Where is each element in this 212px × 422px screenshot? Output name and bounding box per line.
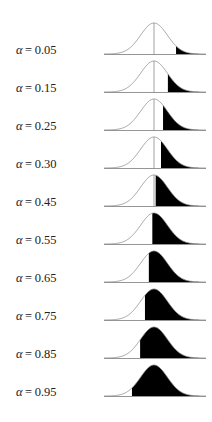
alpha-row: α = 0.95 [0, 0, 212, 38]
alpha-tail-figure: α = 0.05α = 0.15α = 0.25α = 0.30α = 0.45… [0, 0, 212, 422]
normal-curve-icon [0, 0, 212, 422]
shaded-tail-area [132, 365, 206, 396]
